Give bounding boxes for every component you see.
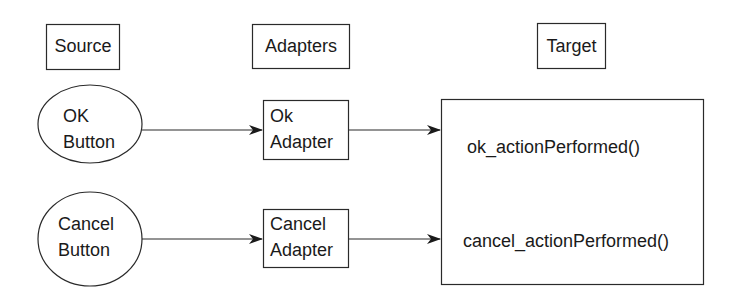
source-header-label: Source [46, 35, 120, 57]
ok-adapter-label-line1: Ok [270, 105, 293, 127]
ok-adapter-label-line2: Adapter [270, 131, 333, 153]
cancel-adapter-label-line1: Cancel [270, 213, 326, 235]
target-method-cancel: cancel_actionPerformed() [463, 230, 669, 252]
target-header-label: Target [537, 35, 606, 57]
cancel-button-label-line2: Button [58, 239, 110, 261]
target-method-ok: ok_actionPerformed() [467, 136, 640, 158]
adapters-header-label: Adapters [252, 35, 350, 57]
cancel-adapter-label-line2: Adapter [270, 239, 333, 261]
ok-button-label-line2: Button [63, 131, 115, 153]
cancel-button-label-line1: Cancel [58, 213, 114, 235]
target-box [442, 100, 704, 285]
ok-button-label-line1: OK [63, 105, 89, 127]
